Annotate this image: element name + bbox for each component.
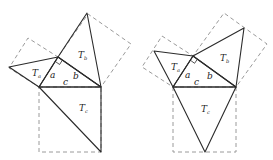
label-Ta: Ta (32, 68, 41, 79)
right-angle-marker (55, 60, 62, 64)
triangle-Tc (173, 87, 236, 152)
label-Tb: Tb (78, 50, 87, 61)
square-c-dashed (173, 87, 236, 152)
label-side-c: c (194, 77, 199, 87)
label-side-a: a (185, 70, 190, 80)
label-side-c: c (63, 77, 68, 87)
label-Tb: Tb (220, 53, 229, 64)
right-angle-marker (190, 59, 197, 63)
label-Tc: Tc (201, 104, 210, 115)
label-side-b: b (73, 71, 79, 81)
triangle-Tb (193, 28, 244, 87)
label-side-a: a (50, 70, 55, 80)
label-side-b: b (207, 71, 213, 81)
left-figure: Ta Tb Tc a b c (9, 13, 131, 152)
right-figure: Ta Tb Tc a b c (142, 13, 267, 152)
pythagorean-triangles-diagram: Ta Tb Tc a b c Ta Tb Tc a b c (0, 0, 273, 160)
triangle-Tc (39, 87, 101, 152)
label-Tc: Tc (79, 103, 88, 114)
label-Ta: Ta (171, 62, 180, 73)
